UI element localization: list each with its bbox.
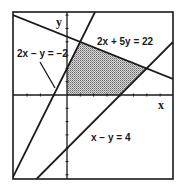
- diagram-canvas: y x 2x + 5y = 22 2x − y = −2 x − y = 4: [0, 0, 181, 187]
- label-2x-plus-5y-eq-22: 2x + 5y = 22: [97, 36, 154, 47]
- y-axis-label: y: [56, 15, 62, 29]
- feasible-region: [67, 42, 147, 95]
- x-axis-label: x: [158, 98, 164, 112]
- label-2x-minus-y-eq-neg2: 2x − y = −2: [17, 48, 68, 59]
- label-leader-line: [40, 62, 55, 88]
- label-x-minus-y-eq-4: x − y = 4: [91, 132, 131, 143]
